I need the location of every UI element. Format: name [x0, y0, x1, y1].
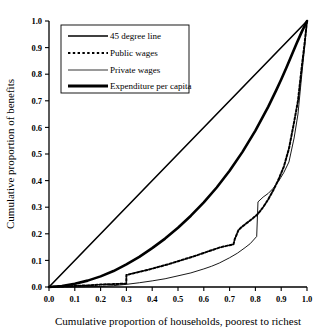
legend-label: Expenditure per capita — [110, 81, 191, 91]
lorenz-curve-chart: 0.00.10.20.30.40.50.60.70.80.91.0 0.00.1… — [0, 0, 326, 336]
y-tick-label: 0.5 — [31, 149, 42, 159]
y-tick-label: 0.8 — [31, 69, 42, 79]
chart-legend: 45 degree linePublic wagesPrivate wagesE… — [61, 25, 191, 93]
x-tick-label: 0.0 — [44, 294, 55, 304]
legend-label: 45 degree line — [110, 31, 161, 41]
y-tick-label: 0.6 — [31, 123, 42, 133]
y-tick-label: 0.7 — [31, 96, 42, 106]
x-tick-label: 1.0 — [302, 294, 313, 304]
chart-figure: 0.00.10.20.30.40.50.60.70.80.91.0 0.00.1… — [0, 0, 326, 336]
y-tick-label: 0.2 — [31, 229, 42, 239]
y-tick-label: 0.1 — [31, 256, 42, 266]
legend-label: Private wages — [110, 65, 161, 75]
x-tick-label: 0.2 — [95, 294, 106, 304]
x-tick-label: 0.7 — [224, 294, 235, 304]
x-tick-label: 0.3 — [121, 294, 132, 304]
legend-label: Public wages — [110, 48, 158, 58]
y-tick-label: 0.4 — [31, 176, 42, 186]
y-tick-label: 1.0 — [31, 16, 42, 26]
x-tick-label: 0.6 — [198, 294, 209, 304]
y-tick-label: 0.3 — [31, 202, 42, 212]
y-tick-label: 0.0 — [31, 282, 42, 292]
x-tick-label: 0.1 — [69, 294, 80, 304]
x-tick-label: 0.9 — [276, 294, 287, 304]
y-axis-title: Cumulative proportion of benefits — [4, 79, 16, 229]
x-tick-label: 0.4 — [147, 294, 158, 304]
y-tick-label: 0.9 — [31, 43, 42, 53]
x-tick-label: 0.5 — [173, 294, 184, 304]
x-tick-label: 0.8 — [250, 294, 261, 304]
x-axis-title: Cumulative proportion of households, poo… — [55, 315, 301, 327]
